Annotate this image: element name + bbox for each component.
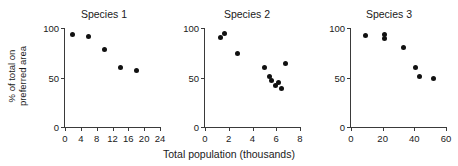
plot-area-species-3: 0501000204060 (350, 28, 446, 128)
panel-species-1: Species 1 05010004812162024 (34, 0, 174, 166)
data-point (70, 32, 75, 37)
x-tick-mark (128, 127, 129, 131)
data-point (218, 35, 223, 40)
panel-title-species-2: Species 2 (174, 8, 320, 20)
x-tick-label: 8 (94, 133, 99, 144)
data-point (431, 76, 436, 81)
data-point (262, 65, 267, 70)
y-axis-label-line-1: % of total on (6, 46, 17, 106)
data-point (276, 80, 281, 85)
x-tick-label: 16 (123, 133, 134, 144)
x-tick-label: 20 (139, 133, 150, 144)
data-point (269, 78, 274, 83)
x-tick-label: 8 (297, 133, 302, 144)
x-tick-mark (205, 127, 206, 131)
x-tick-mark (144, 127, 145, 131)
x-tick-mark (446, 127, 447, 131)
data-point (401, 45, 406, 50)
x-tick-label: 2 (226, 133, 231, 144)
y-tick-label: 50 (188, 72, 199, 83)
x-tick-label: 6 (274, 133, 279, 144)
y-axis-label-line-2: preferred area (17, 46, 28, 106)
data-point (413, 65, 418, 70)
y-tick-mark (347, 78, 351, 79)
data-point (279, 86, 284, 91)
y-tick-mark (201, 28, 205, 29)
x-tick-label: 4 (250, 133, 255, 144)
panel-title-species-3: Species 3 (320, 8, 458, 20)
data-point (283, 61, 288, 66)
y-tick-label: 0 (340, 122, 345, 133)
panel-title-species-1: Species 1 (34, 8, 174, 20)
x-tick-label: 0 (62, 133, 67, 144)
y-tick-label: 100 (183, 23, 199, 34)
x-tick-label: 20 (377, 133, 388, 144)
y-tick-mark (61, 28, 65, 29)
y-tick-label: 50 (48, 72, 59, 83)
species-scatter-figure: % of total on preferred area Species 1 0… (0, 0, 458, 166)
x-tick-mark (81, 127, 82, 131)
x-tick-mark (383, 127, 384, 131)
x-tick-mark (351, 127, 352, 131)
x-tick-mark (276, 127, 277, 131)
x-tick-mark (414, 127, 415, 131)
x-tick-label: 4 (78, 133, 83, 144)
x-tick-mark (300, 127, 301, 131)
x-tick-mark (65, 127, 66, 131)
plot-area-species-1: 05010004812162024 (64, 28, 160, 128)
y-axis-label: % of total on preferred area (0, 18, 34, 134)
data-point (102, 47, 107, 52)
data-point (134, 68, 139, 73)
plot-area-species-2: 05010002468 (204, 28, 300, 128)
y-tick-label: 50 (334, 72, 345, 83)
x-tick-label: 12 (107, 133, 118, 144)
y-tick-mark (201, 78, 205, 79)
y-tick-mark (347, 28, 351, 29)
y-tick-label: 0 (54, 122, 59, 133)
y-tick-label: 0 (194, 122, 199, 133)
y-tick-label: 100 (329, 23, 345, 34)
x-tick-label: 0 (202, 133, 207, 144)
data-point (118, 65, 123, 70)
data-point (235, 51, 240, 56)
x-tick-mark (229, 127, 230, 131)
data-point (417, 74, 422, 79)
x-tick-label: 60 (441, 133, 452, 144)
data-point (363, 33, 368, 38)
x-tick-label: 24 (155, 133, 166, 144)
x-axis-label: Total population (thousands) (0, 148, 458, 160)
data-point (382, 36, 387, 41)
y-tick-mark (61, 78, 65, 79)
x-tick-label: 0 (348, 133, 353, 144)
x-tick-mark (253, 127, 254, 131)
panel-species-2: Species 2 05010002468 (174, 0, 320, 166)
x-tick-mark (160, 127, 161, 131)
data-point (222, 31, 227, 36)
panel-species-3: Species 3 0501000204060 (320, 0, 458, 166)
x-tick-mark (113, 127, 114, 131)
x-tick-mark (97, 127, 98, 131)
data-point (86, 34, 91, 39)
y-tick-label: 100 (43, 23, 59, 34)
x-tick-label: 40 (409, 133, 420, 144)
